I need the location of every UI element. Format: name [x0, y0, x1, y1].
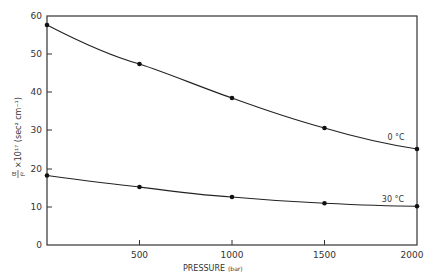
x-tick-label: 2000: [401, 250, 424, 260]
x-axis: [140, 240, 325, 245]
y-label-text: ×10¹⁷ (sec² cm⁻¹): [14, 97, 23, 168]
x-axis-unit: (bar): [228, 265, 243, 272]
y-tick-label: 60: [31, 11, 43, 21]
series-30C-label: 30 °C: [382, 195, 405, 204]
series-0C-line: [47, 25, 417, 149]
y-tick-label: 50: [31, 49, 43, 59]
y-axis: [47, 54, 52, 207]
x-tick-label: 1500: [313, 250, 336, 260]
x-tick-label: 1000: [221, 250, 244, 260]
y-tick-label: 20: [31, 164, 43, 174]
y-tick-label: 30: [31, 125, 43, 135]
series-30C-markers: [45, 173, 420, 208]
series-0C-label: 0 °C: [387, 133, 405, 142]
y-tick-label: 10: [31, 202, 43, 212]
series-0C-markers: [45, 23, 420, 152]
y-label-numerator: α: [10, 171, 18, 176]
series-30C-line: [47, 176, 417, 207]
x-axis-title: PRESSURE: [183, 264, 225, 273]
y-label-denominator: f²: [19, 171, 26, 176]
y-axis-title: α f² ×10¹⁷ (sec² cm⁻¹): [10, 97, 26, 178]
x-tick-label: 500: [131, 250, 148, 260]
y-tick-label: 0: [36, 240, 42, 250]
chart: 0 10 20 30 40 50 60 500 1000 1500 2000 P…: [0, 0, 437, 279]
y-tick-label: 40: [31, 87, 43, 97]
plot-frame: [47, 16, 417, 245]
